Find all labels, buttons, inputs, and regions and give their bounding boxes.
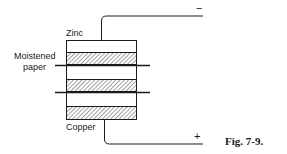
negative-terminal-sign: − <box>196 2 202 14</box>
negative-wire <box>102 16 204 40</box>
hatched-layer-2 <box>67 80 137 92</box>
figure-caption: Fig. 7-9. <box>225 135 263 147</box>
hatched-layer-3 <box>67 107 137 120</box>
hatched-layer-1 <box>67 53 137 65</box>
copper-label: Copper <box>66 122 96 132</box>
zinc-label: Zinc <box>66 28 84 38</box>
positive-wire <box>105 120 204 144</box>
moistened-label-line2: paper <box>23 62 46 72</box>
voltaic-pile-diagram: Zinc Moistened paper Copper − + Fig. 7-9… <box>0 0 287 154</box>
moistened-label-line1: Moistened <box>14 51 56 61</box>
cell-stack <box>55 41 150 120</box>
positive-terminal-sign: + <box>194 130 200 142</box>
